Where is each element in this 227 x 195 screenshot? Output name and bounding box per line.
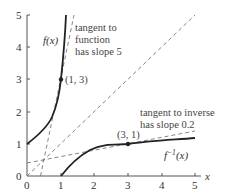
point-b-label: (3, 1) [117,129,140,141]
x-tick-0: 0 [24,179,30,191]
x-tick-1: 1 [58,179,64,191]
x-tick-3: 3 [125,179,131,191]
inverse-label-arg: (x) [176,149,189,162]
function-label: f(x) [43,34,59,47]
annotation-tangent-function-3: has slope 5 [75,46,122,57]
inverse-label-sup: −1 [167,148,176,157]
annotation-tangent-function-2: function [75,34,111,45]
x-tick-4: 4 [159,179,165,191]
point-a-label: (1, 3) [65,74,88,86]
x-tick-2: 2 [91,179,97,191]
point-1-3 [59,77,63,81]
tangent-inverse-line [27,131,195,163]
function-inverse-chart: 0 1 2 3 4 5 0 1 2 3 4 5 x (1, 3) (3, 1) … [0,0,227,195]
annotation-tangent-inverse-2: has slope 0.2 [140,119,195,130]
x-axis-label: x [204,170,210,182]
annotation-tangent-function-1: tangent to [75,22,117,33]
y-tick-0: 0 [16,170,22,182]
y-tick-4: 4 [16,41,22,53]
point-3-1 [126,142,130,146]
x-tick-5: 5 [192,179,198,191]
y-tick-3: 3 [16,73,22,85]
y-tick-2: 2 [16,106,22,118]
annotation-tangent-inverse-1: tangent to inverse [140,107,215,118]
y-tick-1: 1 [16,138,22,150]
y-tick-5: 5 [16,9,22,21]
inverse-label: f−1(x) [164,148,188,162]
